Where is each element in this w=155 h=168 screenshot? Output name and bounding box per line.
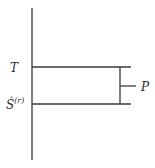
label-s-superscript: (r) xyxy=(14,96,24,105)
label-s: Ṡ(r) xyxy=(6,96,24,112)
label-s-base: Ṡ xyxy=(6,96,14,112)
label-p: P xyxy=(140,80,150,94)
label-t: T xyxy=(10,61,19,75)
level-diagram: T Ṡ(r) P xyxy=(0,0,155,168)
